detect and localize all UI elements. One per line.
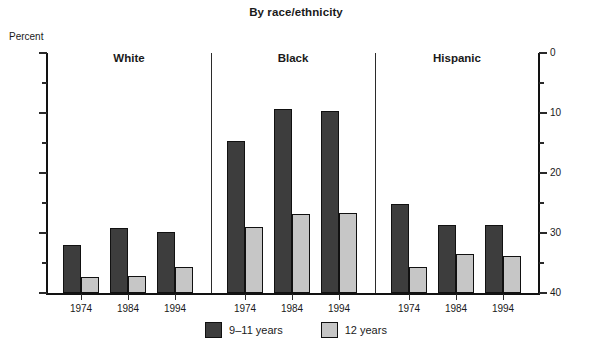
bar-hispanic-1994-series-0 [485,225,503,293]
x-axis-label-black-1974: 1974 [222,303,268,314]
bar-black-1984-series-0 [274,109,292,293]
bar-white-1974-series-1 [81,277,99,293]
bar-white-1984-series-0 [110,228,128,293]
x-tick-black-1994 [339,294,340,300]
bar-white-1984-series-1 [128,276,146,293]
x-tick-white-1994 [175,294,176,300]
y-tick-minor-right-5 [539,262,544,263]
bar-hispanic-1984-series-1 [456,254,474,293]
y-tick-label-right-10: 30 [550,228,580,238]
y-tick-minor-left-5 [42,262,47,263]
bar-white-1974-series-0 [63,245,81,293]
legend-swatch-icon-series-1 [321,322,338,338]
y-tick-right-10 [539,232,547,233]
x-axis-label-hispanic-1994: 1994 [480,303,526,314]
y-tick-minor-right-35 [539,82,544,83]
bar-hispanic-1974-series-1 [409,267,427,293]
x-tick-hispanic-1984 [456,294,457,300]
bar-white-1994-series-1 [175,267,193,293]
y-tick-label-right-30: 10 [550,108,580,118]
x-axis-label-hispanic-1984: 1984 [433,303,479,314]
x-axis-label-white-1994: 1994 [152,303,198,314]
y-tick-minor-right-25 [539,142,544,143]
bar-white-1994-series-0 [157,232,175,293]
bar-black-1984-series-1 [292,214,310,293]
chart-title: By race/ethnicity [0,6,592,18]
x-tick-hispanic-1994 [503,294,504,300]
x-tick-black-1974 [245,294,246,300]
y-tick-left-40 [39,52,47,53]
bar-chart: By race/ethnicity Percent 40403030202010… [0,0,592,352]
x-axis-label-white-1984: 1984 [105,303,151,314]
y-tick-label-right-0: 40 [550,288,580,298]
x-axis-label-black-1984: 1984 [269,303,315,314]
group-heading-black: Black [211,52,375,64]
y-tick-right-0 [539,292,547,293]
legend-item-series-0: 9–11 years [205,322,283,338]
y-tick-left-20 [39,172,47,173]
y-tick-label-right-20: 20 [550,168,580,178]
bar-hispanic-1994-series-1 [503,256,521,293]
x-axis-label-white-1974: 1974 [58,303,104,314]
bar-black-1974-series-1 [245,227,263,293]
group-separator-1 [211,53,212,293]
y-tick-left-30 [39,112,47,113]
plot-area: 404030302020101000 WhiteBlackHispanic 19… [47,53,539,293]
y-tick-label-right-40: 0 [550,48,580,58]
x-tick-hispanic-1974 [409,294,410,300]
y-tick-minor-left-25 [42,142,47,143]
y-tick-minor-right-15 [539,202,544,203]
y-tick-minor-left-15 [42,202,47,203]
bar-black-1994-series-1 [339,213,357,293]
y-tick-right-30 [539,112,547,113]
x-tick-white-1974 [81,294,82,300]
x-tick-black-1984 [292,294,293,300]
group-heading-white: White [47,52,211,64]
y-tick-minor-left-35 [42,82,47,83]
bar-black-1994-series-0 [321,111,339,293]
chart-legend: 9–11 years 12 years [0,322,592,338]
group-heading-hispanic: Hispanic [375,52,539,64]
bar-hispanic-1974-series-0 [391,204,409,293]
y-tick-right-40 [539,52,547,53]
bar-hispanic-1984-series-0 [438,225,456,293]
y-tick-left-10 [39,232,47,233]
bar-black-1974-series-0 [227,141,245,293]
y-tick-right-20 [539,172,547,173]
legend-label-series-0: 9–11 years [229,324,283,336]
x-axis-label-hispanic-1974: 1974 [386,303,432,314]
y-tick-left-0 [39,292,47,293]
group-separator-2 [375,53,376,293]
x-axis-label-black-1994: 1994 [316,303,362,314]
legend-label-series-1: 12 years [345,324,387,336]
legend-swatch-icon-series-0 [205,322,222,338]
y-axis-unit-label: Percent [9,31,43,42]
legend-item-series-1: 12 years [321,322,387,338]
x-tick-white-1984 [128,294,129,300]
